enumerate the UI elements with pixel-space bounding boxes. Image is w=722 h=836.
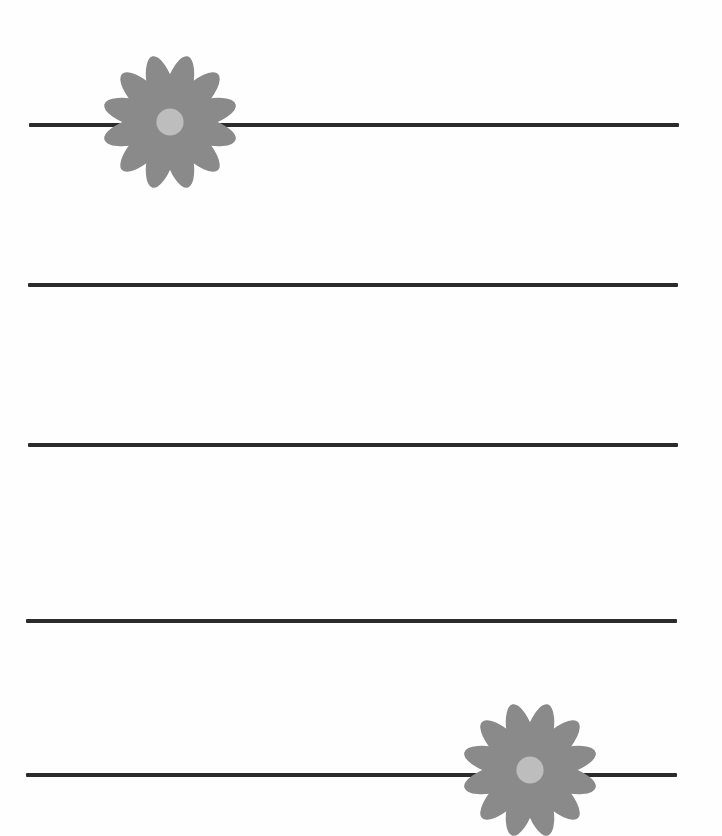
lined-paper-page [0, 0, 722, 836]
daisy-top-left-icon [98, 50, 242, 194]
daisy-bottom-right-icon [458, 698, 602, 836]
ruled-line-4 [26, 619, 677, 623]
ruled-line-2 [28, 283, 678, 287]
ruled-line-3 [28, 443, 678, 447]
